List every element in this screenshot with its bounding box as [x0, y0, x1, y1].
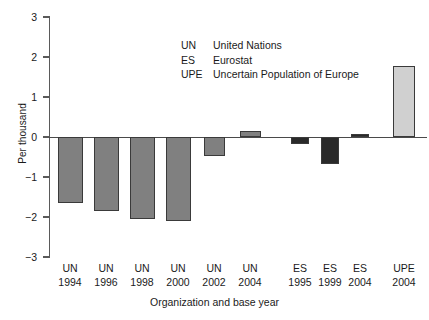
y-tick-label: 1 — [3, 92, 37, 102]
y-tick-label: −3 — [3, 252, 37, 262]
bar — [94, 137, 119, 211]
y-tick-label: 3 — [3, 12, 37, 22]
bar — [351, 134, 369, 137]
legend: UN United Nations ES Eurostat UPE Uncert… — [181, 38, 359, 82]
legend-abbr: ES — [181, 53, 213, 68]
y-tick-mark — [43, 16, 50, 17]
y-tick-label: −2 — [3, 212, 37, 222]
x-tick-year: 2004 — [378, 276, 429, 290]
x-axis-title: Organization and base year — [0, 296, 429, 308]
legend-label: Uncertain Population of Europe — [213, 67, 359, 82]
y-tick-mark — [43, 176, 50, 177]
bar — [130, 137, 155, 219]
bar-chart: Per thousand 3210−1−2−3 UN United Nation… — [0, 0, 429, 320]
bar — [321, 137, 339, 164]
x-tick-label-group: UPE2004 — [378, 262, 429, 289]
y-tick-label: 0 — [3, 132, 37, 142]
y-tick-mark — [43, 256, 50, 257]
legend-label: United Nations — [213, 38, 359, 53]
bar — [166, 137, 191, 221]
legend-abbr: UN — [181, 38, 213, 53]
x-tick-organization: UN — [224, 262, 276, 276]
bar — [204, 137, 225, 156]
legend-item: ES Eurostat — [181, 53, 359, 68]
x-tick-organization: UPE — [378, 262, 429, 276]
bar — [393, 66, 415, 137]
y-tick-mark — [43, 56, 50, 57]
x-tick-year: 2004 — [224, 276, 276, 290]
legend-item: UN United Nations — [181, 38, 359, 53]
y-tick-label: 2 — [3, 52, 37, 62]
legend-item: UPE Uncertain Population of Europe — [181, 67, 359, 82]
x-tick-label-group: UN2004 — [224, 262, 276, 289]
bar — [291, 137, 309, 144]
bar — [58, 137, 83, 203]
y-tick-label: −1 — [3, 172, 37, 182]
legend-abbr: UPE — [181, 67, 213, 82]
y-tick-mark — [43, 216, 50, 217]
legend-label: Eurostat — [213, 53, 359, 68]
y-tick-mark — [43, 96, 50, 97]
bar — [240, 131, 261, 137]
